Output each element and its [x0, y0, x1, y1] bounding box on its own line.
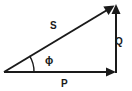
angle-arc-phi — [30, 56, 34, 72]
vector-p-arrowhead-icon — [106, 68, 116, 77]
label-p: P — [61, 79, 68, 89]
label-phi-angle: ϕ — [45, 55, 53, 66]
power-triangle-diagram: S Q P ϕ — [0, 0, 132, 91]
vector-p-group — [4, 68, 116, 77]
label-q: Q — [115, 37, 123, 47]
vector-s-line — [4, 10, 108, 73]
vector-q-arrowhead-icon — [112, 4, 121, 14]
label-s: S — [50, 21, 57, 31]
vector-s-group — [4, 6, 115, 73]
